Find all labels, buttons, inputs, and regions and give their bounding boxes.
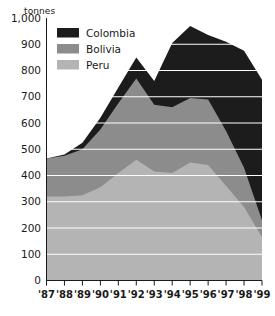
y-axis-tick-label-500: 500 <box>21 143 41 155</box>
x-axis-tick-label-10: '97 <box>218 289 235 300</box>
legend-label-colombia: Colombia <box>86 27 135 39</box>
y-axis-tick-label-100: 100 <box>21 248 41 260</box>
y-axis-tick-label-0: 0 <box>34 274 41 286</box>
x-axis-tick-label-5: '92 <box>128 289 145 300</box>
x-axis-tick-label-11: '98 <box>236 289 253 300</box>
y-axis-group: 1,0009008007006005004003002001000 <box>11 12 47 287</box>
legend-swatch-peru <box>57 60 79 70</box>
chart-legend: ColombiaBoliviaPeru <box>57 27 135 71</box>
x-axis-tick-label-1: '88 <box>56 289 73 300</box>
x-axis-tick-label-7: '94 <box>164 289 181 300</box>
y-axis-tick-label-700: 700 <box>21 90 41 102</box>
x-axis-group: '87'88'89'90'91'92'93'94'95'96'97'98'99 <box>38 281 271 300</box>
legend-swatch-bolivia <box>57 44 79 54</box>
chart-canvas: 1,0009008007006005004003002001000 '87'88… <box>0 0 275 316</box>
y-axis-tick-label-600: 600 <box>21 117 41 129</box>
x-axis-tick-label-12: '99 <box>254 289 271 300</box>
x-axis-tick-label-6: '93 <box>146 289 163 300</box>
x-axis-tick-label-9: '96 <box>200 289 217 300</box>
x-axis-tick-label-4: '91 <box>110 289 127 300</box>
y-axis-tick-label-900: 900 <box>21 38 41 50</box>
legend-swatch-colombia <box>57 28 79 38</box>
y-axis-tick-label-400: 400 <box>21 169 41 181</box>
x-axis-tick-label-8: '95 <box>182 289 199 300</box>
legend-label-peru: Peru <box>86 59 109 71</box>
x-axis-tick-label-2: '89 <box>74 289 91 300</box>
legend-label-bolivia: Bolivia <box>86 43 121 55</box>
y-axis-tick-label-300: 300 <box>21 195 41 207</box>
y-axis-tick-label-800: 800 <box>21 64 41 76</box>
y-axis-tick-label-1000: 1,000 <box>11 12 41 24</box>
x-axis-tick-label-3: '90 <box>92 289 109 300</box>
y-axis-tick-label-200: 200 <box>21 222 41 234</box>
x-axis-tick-label-0: '87 <box>38 289 55 300</box>
stacked-area-chart: tonnes 1,0009008007006005004003002001000… <box>0 0 275 316</box>
